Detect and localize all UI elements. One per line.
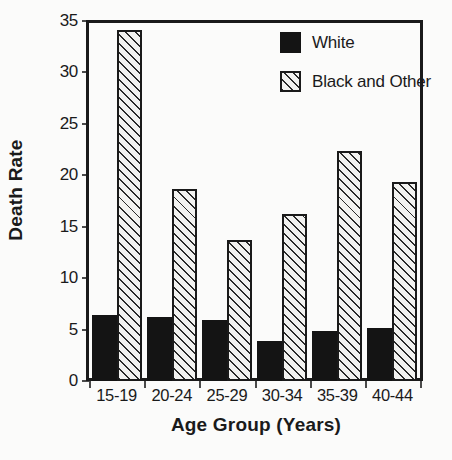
chart-figure: Death Rate 0 5 10 15 20 25 30 35 15-1920… <box>0 0 452 460</box>
y-tick-label: 15 <box>60 217 78 237</box>
bar-black-and-other-30-34 <box>282 214 307 381</box>
chart-legend: White Black and Other <box>280 32 431 92</box>
solid-black-square-icon <box>280 32 301 53</box>
bar-white-25-29 <box>202 320 227 381</box>
bar-white-35-39 <box>312 331 337 381</box>
legend-item-white: White <box>280 32 431 53</box>
y-tick-label: 0 <box>69 371 78 391</box>
y-tick-label: 5 <box>69 320 78 340</box>
legend-label: Black and Other <box>312 72 431 92</box>
x-axis-label-20-24: 20-24 <box>144 386 199 405</box>
y-tick-label: 30 <box>60 62 78 82</box>
x-axis-label-15-19: 15-19 <box>89 386 144 405</box>
bar-white-20-24 <box>147 317 172 381</box>
hatched-square-icon <box>280 71 301 92</box>
bar-black-and-other-35-39 <box>337 151 362 381</box>
y-tick-label: 25 <box>60 114 78 134</box>
bar-black-and-other-20-24 <box>172 189 197 381</box>
y-tick-15: 15 <box>60 217 89 237</box>
x-axis-labels: 15-1920-2425-2930-3435-3940-44 <box>89 386 420 405</box>
y-tick-label: 10 <box>60 268 78 288</box>
y-tick-35: 35 <box>60 11 89 31</box>
bar-white-40-44 <box>367 328 392 382</box>
bar-group-15-19 <box>92 21 142 381</box>
y-axis-title: Death Rate <box>5 139 27 240</box>
y-tick-10: 10 <box>60 268 89 288</box>
legend-item-black-and-other: Black and Other <box>280 71 431 92</box>
bar-black-and-other-15-19 <box>117 30 142 381</box>
legend-label: White <box>312 33 354 53</box>
x-axis-label-30-34: 30-34 <box>255 386 310 405</box>
x-axis-label-40-44: 40-44 <box>365 386 420 405</box>
bar-group-20-24 <box>147 21 197 381</box>
bar-white-15-19 <box>92 315 117 381</box>
bar-black-and-other-25-29 <box>227 240 252 381</box>
bar-white-30-34 <box>257 341 282 381</box>
y-tick-30: 30 <box>60 62 89 82</box>
x-axis-title: Age Group (Years) <box>0 414 452 436</box>
y-tick-label: 35 <box>60 11 78 31</box>
x-tick-mark <box>420 381 422 388</box>
x-axis-label-35-39: 35-39 <box>310 386 365 405</box>
bar-group-25-29 <box>202 21 252 381</box>
y-tick-label: 20 <box>60 165 78 185</box>
x-axis-label-25-29: 25-29 <box>199 386 254 405</box>
y-tick-20: 20 <box>60 165 89 185</box>
y-tick-25: 25 <box>60 114 89 134</box>
bar-black-and-other-40-44 <box>392 182 417 382</box>
